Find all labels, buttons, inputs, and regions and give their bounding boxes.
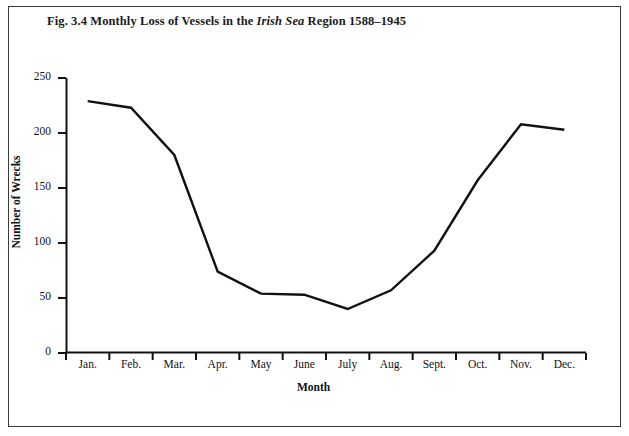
x-tick-label: July [326, 358, 369, 370]
x-tick-label: Oct. [456, 358, 499, 370]
x-tick-label: Nov. [499, 358, 542, 370]
x-tick-label: Jan. [66, 358, 109, 370]
x-axis-title: Month [297, 381, 330, 393]
x-tick-label: Feb. [109, 358, 152, 370]
y-tick-label: 150 [17, 180, 51, 192]
x-tick-label: Aug. [369, 358, 412, 370]
x-tick-label: May [239, 358, 282, 370]
y-axis-title: Number of Wrecks [10, 155, 22, 248]
x-tick-label: Mar. [153, 358, 196, 370]
y-tick-label: 100 [17, 235, 51, 247]
data-series-line [88, 101, 565, 309]
figure-container: Fig. 3.4 Monthly Loss of Vessels in the … [0, 0, 629, 436]
x-tick-label: Apr. [196, 358, 239, 370]
y-tick-label: 200 [17, 125, 51, 137]
y-tick-label: 250 [17, 70, 51, 82]
y-tick-label: 50 [17, 290, 51, 302]
y-tick-label: 0 [17, 345, 51, 357]
x-tick-label: June [283, 358, 326, 370]
chart-svg [0, 0, 629, 436]
axes-group [66, 78, 586, 353]
chart-plot: 050100150200250 Jan.Feb.Mar.Apr.MayJuneJ… [0, 0, 629, 436]
x-tick-label: Sept. [413, 358, 456, 370]
x-tick-label: Dec. [543, 358, 586, 370]
y-tick-marks [58, 78, 66, 353]
